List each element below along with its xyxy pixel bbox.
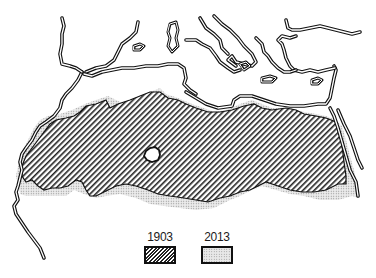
legend-item-1903: 1903 [144,231,176,264]
legend: 1903 2013 [0,231,376,271]
legend-label-2013: 2013 [204,231,230,244]
hatch-swatch-icon [144,246,176,264]
legend-item-2013: 2013 [201,231,233,264]
stipple-swatch-icon [201,246,233,264]
legend-label-1903: 1903 [147,231,173,244]
